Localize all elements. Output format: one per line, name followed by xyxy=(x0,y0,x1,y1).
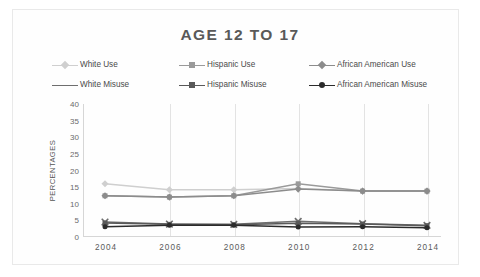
data-point xyxy=(103,224,108,229)
legend-label: White Misuse xyxy=(80,80,129,90)
data-point xyxy=(167,223,172,228)
y-axis-label: PERCENTAGES xyxy=(47,104,59,237)
legend-item-white-use[interactable]: White Use xyxy=(52,55,179,75)
legend-marker-circle-icon xyxy=(309,80,335,90)
data-point xyxy=(360,224,365,229)
data-point xyxy=(166,186,173,193)
series-layer xyxy=(83,104,441,237)
legend-label: White Use xyxy=(80,60,118,70)
legend-marker-diamond-icon xyxy=(52,60,78,70)
chart-screenshot: AGE 12 TO 17 White UseHispanic UseAfrica… xyxy=(0,0,480,277)
plot-area-wrapper: 0510152025303540200420062008201020122014 xyxy=(83,104,441,237)
data-point xyxy=(296,181,301,186)
y-axis-tick: 30 xyxy=(70,133,79,142)
legend-item-hispanic-use[interactable]: Hispanic Use xyxy=(179,55,309,75)
x-axis-tick: 2006 xyxy=(159,243,181,252)
y-axis-tick: 5 xyxy=(75,216,79,225)
chart-title: AGE 12 TO 17 xyxy=(0,26,480,44)
legend-label: African American Use xyxy=(337,60,416,70)
legend-marker-diamond-icon xyxy=(309,60,335,70)
x-axis-tick: 2004 xyxy=(95,243,117,252)
data-point xyxy=(425,225,430,230)
data-point xyxy=(296,225,301,230)
y-axis-tick: 40 xyxy=(70,100,79,109)
y-axis-tick: 35 xyxy=(70,116,79,125)
legend-item-hispanic-misuse[interactable]: Hispanic Misuse xyxy=(179,75,309,95)
legend-item-african-american-use[interactable]: African American Use xyxy=(309,55,442,75)
x-axis-tick: 2012 xyxy=(352,243,374,252)
legend-marker-square-icon xyxy=(179,80,205,90)
x-axis-tick: 2014 xyxy=(417,243,439,252)
x-axis-tick: 2010 xyxy=(288,243,310,252)
legend-item-white-misuse[interactable]: White Misuse xyxy=(52,75,179,95)
chart-legend: White UseHispanic UseAfrican American Us… xyxy=(52,55,442,95)
data-point xyxy=(295,186,302,193)
legend-item-african-american-misuse[interactable]: African American Misuse xyxy=(309,75,442,95)
legend-label: African American Misuse xyxy=(337,80,427,90)
y-axis-tick: 0 xyxy=(75,233,79,242)
legend-marker-square-icon xyxy=(179,60,205,70)
legend-label: Hispanic Misuse xyxy=(207,80,267,90)
legend-label: Hispanic Use xyxy=(207,60,255,70)
y-axis-tick: 20 xyxy=(70,166,79,175)
x-axis-tick: 2008 xyxy=(224,243,246,252)
series-line xyxy=(105,225,427,227)
data-point xyxy=(101,180,108,187)
data-point xyxy=(231,223,236,228)
y-axis-tick: 10 xyxy=(70,199,79,208)
legend-marker-x-icon xyxy=(52,80,78,90)
y-axis-tick: 15 xyxy=(70,183,79,192)
y-axis-tick: 25 xyxy=(70,149,79,158)
